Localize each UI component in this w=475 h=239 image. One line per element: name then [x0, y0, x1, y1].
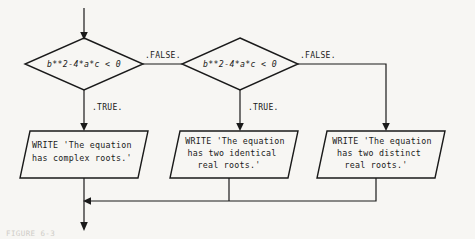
output-box-2-line-1: WRITE 'The equation [185, 136, 285, 146]
output-box-3-line-3: real roots.' [345, 160, 408, 170]
decision-2-true-branch: .TRUE. [236, 90, 279, 131]
decision-1-false-branch: .FALSE. [143, 51, 182, 64]
merge-connectors [83, 178, 376, 205]
output-box-complex-roots[interactable]: WRITE 'The equation has complex roots.' [20, 131, 148, 178]
output-box-1-line-1: WRITE 'The equation [32, 140, 132, 150]
output-box-1-line-2: has complex roots.' [32, 153, 132, 163]
decision-2-false-label: .FALSE. [300, 51, 336, 60]
decision-discriminant-test-1[interactable]: b**2-4*a*c < 0 [25, 38, 143, 90]
decision-1-false-label: .FALSE. [145, 51, 181, 60]
decision-2-condition-text: b**2-4*a*c < 0 [203, 59, 277, 69]
decision-discriminant-test-2[interactable]: b**2-4*a*c < 0 [182, 38, 298, 90]
output-box-2-line-3: real roots.' [198, 160, 261, 170]
output-box-identical-real-roots[interactable]: WRITE 'The equation has two identical re… [170, 131, 298, 178]
figure-caption: FIGURE 6-3 [6, 229, 55, 238]
decision-2-true-label: .TRUE. [248, 103, 279, 112]
decision-1-true-branch: .TRUE. [80, 90, 123, 131]
decision-1-condition-text: b**2-4*a*c < 0 [47, 59, 121, 69]
output-box-3-line-1: WRITE 'The equation [332, 136, 432, 146]
entry-connector [80, 8, 88, 40]
flowchart-canvas: b**2-4*a*c < 0 .FALSE. .TRUE. b**2-4*a*c… [0, 0, 475, 239]
decision-2-false-branch: .FALSE. [298, 51, 390, 131]
decision-1-true-label: .TRUE. [92, 103, 123, 112]
flowchart-figure: b**2-4*a*c < 0 .FALSE. .TRUE. b**2-4*a*c… [0, 0, 475, 239]
output-box-2-line-2: has two identical [187, 148, 276, 158]
output-box-3-line-2: has two distinct [337, 148, 421, 158]
output-box-distinct-real-roots[interactable]: WRITE 'The equation has two distinct rea… [317, 131, 445, 178]
exit-connector [80, 201, 88, 231]
